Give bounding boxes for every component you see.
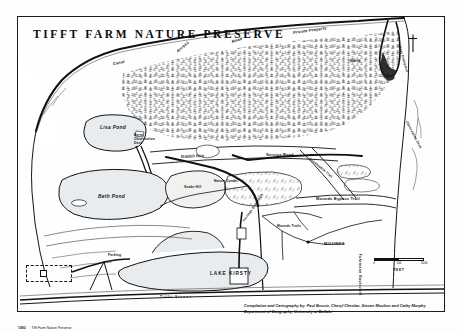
map-linework (0, 0, 462, 332)
credits-line-2: Department of Geography, University at B… (244, 309, 458, 315)
credits-line-1: Compilation and Cartography by: Paul Boc… (244, 303, 458, 309)
scale-bar-fill (375, 259, 399, 260)
label-snake-hill: Snake Hill (184, 186, 201, 189)
legend-box (26, 265, 72, 282)
label-mounds-trails: Mounds Trails (277, 225, 301, 228)
legend-value: Tifft Farm Nature Preserve (32, 326, 72, 330)
legend-swatch (40, 270, 47, 277)
credits-block: Compilation and Cartography by: Paul Boc… (244, 303, 458, 315)
label-mounds-bypass-trail: Mounds Bypass Trail (316, 197, 360, 201)
label-tifft-street: Tifft Street (160, 296, 192, 299)
label-nature-center: Nature Center (214, 180, 238, 183)
label-lake-kirsty: LAKE KIRSTY (210, 272, 252, 277)
label-parking: Parking (108, 254, 121, 257)
legend-key: 1993 (18, 326, 26, 330)
label-berm-observation-deck: Berm Observation Deck (134, 134, 150, 145)
label-mounds: MOUNDS (324, 242, 345, 246)
scale-tick-0: 0 (373, 261, 375, 265)
north-arrow-icon (407, 33, 419, 53)
map-figure: TIFFT FARM NATURE PRESERVE Canal Access … (0, 0, 462, 332)
scale-tick-1000: 1000 (421, 261, 428, 265)
label-service-road: Service Road (266, 153, 294, 157)
scale-bar-ticks: 0 500 1000 (374, 261, 424, 267)
label-fuhrmann-boulevard: Fuhrmann Boulevard (357, 254, 360, 296)
scale-bar: 0 500 1000 FEET (374, 258, 430, 272)
label-beth-pond: Beth Pond (98, 195, 125, 200)
scale-unit-label: FEET (374, 268, 424, 272)
legend-caption: 1993Tifft Farm Nature Preserve (18, 315, 138, 332)
label-lisa-pond: Lisa Pond (100, 126, 126, 131)
page-title: TIFFT FARM NATURE PRESERVE (33, 28, 283, 40)
scale-tick-500: 500 (396, 261, 401, 265)
label-marsh: Marsh (350, 60, 360, 63)
